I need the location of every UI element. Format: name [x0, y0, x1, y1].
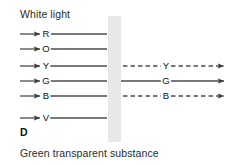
ray-label-right-yellow: Y: [161, 61, 170, 71]
ray-label-left-blue: B: [41, 91, 50, 101]
ray-label-left-red: R: [41, 29, 51, 39]
diagram-caption: Green transparent substance: [20, 147, 159, 159]
panel-label-d: D: [20, 126, 28, 138]
green-transparent-substance-slab: [108, 16, 121, 142]
ray-label-left-yellow: Y: [41, 61, 50, 71]
optics-diagram: White light ROYYGGBBV D Green transparen…: [0, 0, 234, 165]
ray-label-right-blue: B: [161, 91, 170, 101]
ray-label-left-orange: O: [41, 44, 51, 54]
ray-label-right-green: G: [161, 76, 171, 86]
ray-label-left-violet: V: [41, 113, 50, 123]
ray-label-left-green: G: [41, 76, 51, 86]
